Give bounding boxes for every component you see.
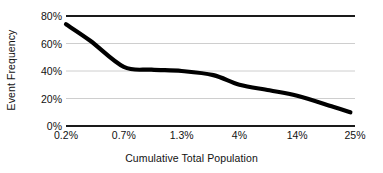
x-axis-tick-label: 1.3% bbox=[170, 129, 194, 141]
x-axis-tick-label: 14% bbox=[287, 129, 308, 141]
chart-container: Event Frequency 0%20%40%60%80% 0.2%0.7%1… bbox=[0, 0, 383, 173]
x-axis-tick-label: 4% bbox=[232, 129, 247, 141]
x-axis-tick-label: 25% bbox=[344, 129, 365, 141]
x-axis-title: Cumulative Total Population bbox=[0, 148, 383, 166]
x-axis-tick-label: 0.2% bbox=[54, 129, 78, 141]
x-axis-title-text: Cumulative Total Population bbox=[125, 152, 258, 164]
x-axis-tick-label: 0.7% bbox=[112, 129, 136, 141]
